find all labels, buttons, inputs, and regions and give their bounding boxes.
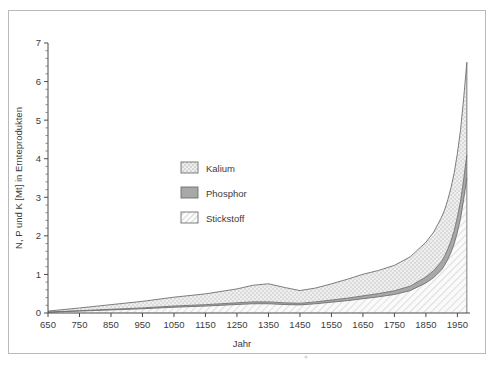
legend-swatch-kalium: [181, 162, 198, 173]
area-chart: 01234567 6507508509501050115012501350145…: [0, 0, 496, 368]
x-tick-label: 1550: [321, 319, 342, 330]
x-axis-ticks: 6507508509501050115012501350145015501650…: [40, 313, 468, 330]
figure-container: 01234567 6507508509501050115012501350145…: [0, 0, 496, 368]
y-axis-title: N, P und K [Mt] in Ernteprodukten: [13, 107, 24, 249]
y-tick-label: 1: [36, 269, 41, 280]
y-axis-ticks: 01234567: [36, 37, 48, 318]
x-tick-label: 1650: [352, 319, 373, 330]
y-tick-label: 3: [36, 192, 41, 203]
legend-swatch-phosphor: [181, 187, 198, 198]
legend-label-kalium: Kalium: [206, 163, 235, 174]
y-tick-label: 7: [36, 37, 41, 48]
x-tick-label: 1950: [447, 319, 468, 330]
legend-label-stickstoff: Stickstoff: [206, 213, 245, 224]
y-tick-label: 6: [36, 76, 41, 87]
x-tick-label: 850: [103, 319, 119, 330]
x-tick-label: 1050: [163, 319, 184, 330]
x-tick-label: 1250: [226, 319, 247, 330]
band-kalium: [48, 62, 467, 312]
legend-swatch-stickstoff: [181, 212, 198, 223]
x-tick-label: 1750: [384, 319, 405, 330]
x-tick-label: 1350: [258, 319, 279, 330]
legend-label-phosphor: Phosphor: [206, 188, 247, 199]
x-axis-title: Jahr: [233, 338, 251, 349]
chart-legend: KaliumPhosphorStickstoff: [181, 162, 247, 224]
scan-artifact-speck: [304, 355, 307, 358]
x-tick-label: 950: [135, 319, 151, 330]
y-tick-label: 4: [36, 153, 41, 164]
x-tick-label: 750: [72, 319, 88, 330]
y-tick-label: 5: [36, 115, 41, 126]
y-tick-label: 2: [36, 230, 41, 241]
x-tick-label: 1150: [195, 319, 215, 330]
x-tick-label: 650: [40, 319, 56, 330]
y-tick-label: 0: [36, 307, 41, 318]
x-tick-label: 1450: [289, 319, 310, 330]
stacked-area-bands: [48, 62, 467, 313]
x-tick-label: 1850: [415, 319, 436, 330]
